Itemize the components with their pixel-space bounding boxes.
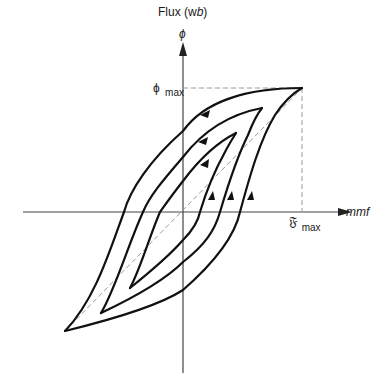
hysteresis-diagram: Flux (wb) ϕ ϕ max 𝔉 max mmf <box>0 0 385 387</box>
middle-ascending-arrow-icon <box>227 191 234 200</box>
y-axis-arrow-icon <box>179 42 187 56</box>
f-max-label: 𝔉 max <box>289 214 321 233</box>
y-axis-label: Flux (wb) <box>158 5 207 19</box>
outer-ascending-arrow-icon <box>247 191 254 200</box>
phi-max-label: ϕ max <box>153 81 184 98</box>
y-axis-symbol: ϕ <box>179 27 186 41</box>
inner-ascending-arrow-icon <box>208 191 215 200</box>
x-axis-label: mmf <box>346 205 371 219</box>
